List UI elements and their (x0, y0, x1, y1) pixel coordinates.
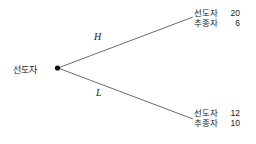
payoff-row: 선도자 12 (194, 108, 240, 118)
payoff-leader-value: 20 (224, 8, 240, 18)
payoff-follower-value: 6 (224, 18, 240, 28)
branch-label-high: H (94, 31, 101, 42)
payoff-outcome-high: 선도자 20 추종자 6 (194, 8, 240, 28)
payoff-leader-value: 12 (224, 108, 240, 118)
payoff-leader-label: 선도자 (194, 108, 224, 118)
root-node-label: 선도자 (13, 63, 38, 76)
game-tree-diagram: 선도자 H L 선도자 20 추종자 6 선도자 12 추종자 10 (0, 0, 256, 144)
payoff-outcome-low: 선도자 12 추종자 10 (194, 108, 240, 128)
payoff-row: 추종자 10 (194, 118, 240, 128)
edge-high (58, 17, 193, 68)
branch-label-low: L (96, 87, 102, 98)
payoff-follower-label: 추종자 (194, 18, 224, 28)
payoff-follower-value: 10 (224, 118, 240, 128)
payoff-row: 선도자 20 (194, 8, 240, 18)
edge-low (58, 68, 193, 119)
payoff-row: 추종자 6 (194, 18, 240, 28)
payoff-leader-label: 선도자 (194, 8, 224, 18)
root-node-dot (55, 65, 60, 70)
payoff-follower-label: 추종자 (194, 118, 224, 128)
